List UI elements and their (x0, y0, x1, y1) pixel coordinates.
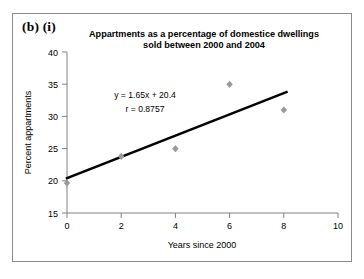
correlation-label: r = 0.8757 (126, 104, 165, 114)
y-tick-labels: 15 20 25 30 35 40 (48, 48, 58, 219)
x-tick-label-2: 2 (119, 221, 124, 231)
data-point-marker (172, 145, 178, 152)
y-tick-label-35: 35 (48, 80, 58, 90)
y-tick-label-15: 15 (48, 209, 58, 219)
x-tick-label-0: 0 (64, 221, 69, 231)
y-tick-label-20: 20 (48, 176, 58, 186)
y-axis-title: Percent appartments (23, 90, 33, 174)
y-axis-ticks (62, 52, 67, 213)
x-tick-label-8: 8 (281, 221, 286, 231)
x-tick-label-10: 10 (333, 221, 343, 231)
x-tick-label-4: 4 (173, 221, 178, 231)
trendline (67, 92, 287, 178)
trendline-equation-label: y = 1.65x + 20.4 (114, 90, 176, 100)
x-tick-labels: 0 2 4 6 8 10 (64, 221, 343, 231)
x-axis-ticks (67, 213, 338, 218)
figure-root: (b) (i) Appartments as a percentage of d… (0, 0, 364, 279)
y-tick-label-30: 30 (48, 112, 58, 122)
scatter-plot: 15 20 25 30 35 40 0 2 4 6 8 10 Years sin… (0, 0, 364, 279)
x-tick-label-6: 6 (227, 221, 232, 231)
data-point-marker (226, 81, 232, 88)
x-axis-title: Years since 2000 (168, 240, 237, 250)
data-point-marker (281, 106, 287, 113)
y-tick-label-40: 40 (48, 48, 58, 58)
y-tick-label-25: 25 (48, 144, 58, 154)
